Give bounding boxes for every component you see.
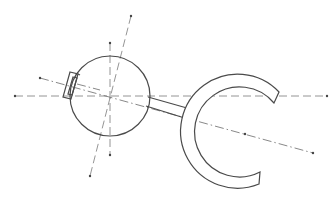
diagonal-axis-end-dot: [312, 152, 314, 154]
diagram-canvas: [0, 0, 335, 199]
diagonal-axis-start-dot: [39, 77, 41, 79]
vertical-axis-top-dot: [109, 42, 111, 44]
tilted-axis-top-dot: [130, 15, 132, 17]
horizontal-axis-end-dot: [326, 95, 328, 97]
diagonal-axis-mid-dot: [244, 133, 246, 135]
c-ring: [181, 74, 279, 188]
horizontal-axis-start-dot: [14, 95, 16, 97]
tilted-axis-bottom-dot: [89, 175, 91, 177]
vertical-axis-bottom-dot: [109, 154, 111, 156]
axis-lines: [14, 15, 328, 177]
